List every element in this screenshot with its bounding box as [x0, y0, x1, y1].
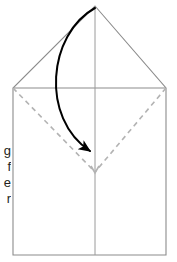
house-pentagon-outline — [13, 6, 166, 255]
caption-line-3: e — [0, 175, 11, 191]
origami-fold-diagram: g f e r — [0, 0, 177, 262]
caption-line-2: f — [0, 159, 11, 175]
caption-line-4: r — [0, 191, 11, 207]
caption-line-1: g — [0, 143, 11, 159]
clipped-caption: g f e r — [0, 143, 11, 207]
figure-canvas — [0, 0, 177, 262]
